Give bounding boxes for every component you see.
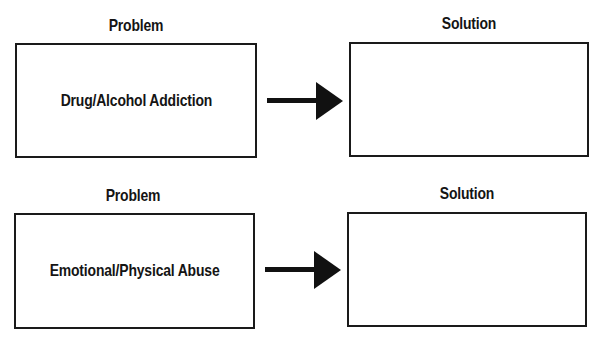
solution-box-2[interactable]: [347, 212, 587, 327]
problem-text-1: Drug/Alcohol Addiction: [60, 91, 212, 111]
problem-box-1: Drug/Alcohol Addiction: [15, 43, 257, 158]
problem-heading-2: Problem: [92, 186, 174, 206]
right-arrow-icon: [266, 80, 344, 122]
problem-heading-1: Problem: [95, 16, 177, 36]
solution-box-1[interactable]: [349, 42, 589, 157]
problem-box-2: Emotional/Physical Abuse: [14, 213, 255, 329]
problem-text-2: Emotional/Physical Abuse: [50, 261, 220, 281]
right-arrow-icon: [264, 249, 342, 291]
solution-heading-1: Solution: [428, 14, 510, 34]
solution-heading-2: Solution: [426, 184, 508, 204]
